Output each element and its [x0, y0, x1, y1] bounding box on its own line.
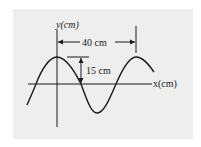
amplitude-label: 15 cm: [86, 65, 111, 76]
wave-diagram: y(cm) x(cm) 40 cm 15 cm: [0, 0, 201, 147]
x-axis-label: x(cm): [153, 78, 177, 90]
wavelength-label: 40 cm: [82, 37, 107, 48]
y-axis-label: y(cm): [55, 19, 79, 31]
